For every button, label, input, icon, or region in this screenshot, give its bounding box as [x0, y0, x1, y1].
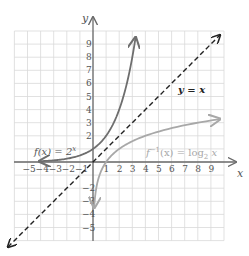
x-tick-label: 5: [156, 164, 162, 174]
x-tick-label: −3: [49, 164, 63, 174]
x-tick-label: −5: [23, 164, 37, 174]
exp-label-sup: x: [72, 145, 76, 153]
x-tick-labels: −5−4−3−2−1123456789: [23, 164, 215, 174]
y-tick-label: 6: [86, 78, 92, 88]
y-axis-label: y: [81, 12, 89, 25]
y-tick-label: −2: [82, 183, 95, 193]
log-function-label: f−1(x) = log2 x: [145, 146, 217, 161]
y-tick-label: 9: [86, 39, 92, 49]
log-label-tail: x: [208, 147, 217, 158]
grid: [14, 31, 224, 241]
x-tick-label: 9: [208, 164, 214, 174]
y-tick-label: −4: [82, 209, 96, 219]
x-tick-label: 4: [143, 164, 149, 174]
log-label-sup: −1: [150, 146, 160, 154]
y-tick-label: 4: [86, 105, 92, 115]
y-tick-label: 7: [86, 65, 92, 75]
y-tick-label: 8: [86, 52, 92, 62]
x-tick-label: 8: [195, 164, 201, 174]
function-inverse-graph: x y −5−4−3−2−1123456789 98765432−2−3−4−5…: [0, 0, 249, 256]
exp-label-main: f(x) = 2: [33, 146, 72, 157]
x-tick-label: 2: [117, 164, 123, 174]
exp-function-label: f(x) = 2x: [33, 145, 76, 157]
y-tick-label: 2: [86, 131, 92, 141]
x-tick-label: −4: [36, 164, 50, 174]
identity-line: [8, 35, 220, 247]
y-tick-label: −5: [82, 223, 96, 233]
y-tick-label: 5: [86, 92, 92, 102]
x-tick-label: −2: [62, 164, 75, 174]
x-tick-label: 3: [130, 164, 136, 174]
x-tick-label: 7: [182, 164, 188, 174]
identity-label: y = x: [177, 84, 206, 95]
log-label-mid: (x) = log: [160, 147, 204, 158]
x-axis-label: x: [237, 167, 244, 180]
y-tick-label: 3: [86, 118, 92, 128]
x-tick-label: 6: [169, 164, 175, 174]
